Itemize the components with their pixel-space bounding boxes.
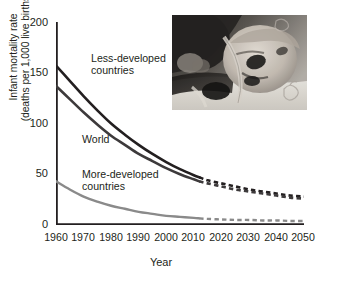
x-tick-label-2020: 2020	[201, 231, 241, 243]
x-tick-label-1960: 1960	[36, 231, 76, 243]
y-axis-label-line2: (deaths per 1,000 live births)	[20, 0, 32, 121]
premature-infant-photo	[170, 13, 309, 112]
series-line-0-projection	[199, 177, 304, 196]
x-axis-label: Year	[0, 256, 344, 268]
infant-mortality-figure: Infant mortality rate (deaths per 1,000 …	[0, 0, 344, 283]
x-tick-label-2000: 2000	[146, 231, 186, 243]
y-axis-label: Infant mortality rate (deaths per 1,000 …	[3, 0, 37, 172]
y-axis-label-line1: Infant mortality rate	[8, 14, 20, 101]
y-tick-label-0: 0	[14, 218, 48, 230]
x-axis-label-text: Year	[150, 256, 172, 268]
annotation-world: World	[82, 133, 109, 145]
photo-graphic	[172, 15, 307, 110]
x-tick-label-1990: 1990	[118, 231, 158, 243]
x-tick-label-2050: 2050	[283, 231, 323, 243]
annotation-less-developed: Less-developed countries	[91, 52, 166, 77]
x-tick-label-2010: 2010	[173, 231, 213, 243]
annotation-more-developed: More-developed countries	[82, 168, 159, 193]
series-line-2-projection	[199, 218, 304, 221]
x-tick-label-1980: 1980	[91, 231, 131, 243]
x-tick-label-1970: 1970	[63, 231, 103, 243]
x-tick-label-2040: 2040	[256, 231, 296, 243]
x-tick-label-2030: 2030	[228, 231, 268, 243]
